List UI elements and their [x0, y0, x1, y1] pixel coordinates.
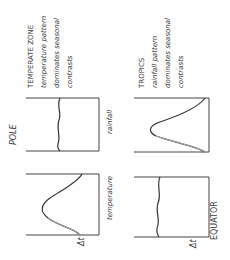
tropics-caption-line-2: rainfall pattern [151, 36, 159, 88]
temperate-caption-line-3: dominates seasonal [53, 18, 61, 88]
temperate-caption-line-2: temperature pattern [40, 16, 48, 88]
flat-curve [157, 177, 160, 237]
temperate-caption-line-1: TEMPERATE ZONE [27, 25, 35, 89]
temperature-label: temperature [106, 176, 114, 220]
panel-frame [134, 98, 209, 152]
flat-curve [58, 98, 60, 151]
delta-t-tropics: Δt [189, 239, 198, 249]
tropics-rainfall-panel [134, 98, 209, 152]
tropics-caption-line-3: dominates seasonal [164, 18, 172, 88]
tropics-caption-line-4: contrasts [177, 55, 185, 88]
tropics-temperature-panel [134, 177, 209, 237]
temperate-temperature-panel [26, 174, 99, 235]
tropics-caption: TROPICS rainfall pattern dominates seaso… [138, 18, 185, 89]
peaked-curve [150, 98, 205, 152]
temperate-caption: TEMPERATE ZONE temperature pattern domin… [27, 16, 74, 89]
peaked-curve-light [48, 218, 80, 235]
peaked-curve-light [156, 136, 205, 152]
climate-diagram: TEMPERATE ZONE temperature pattern domin… [0, 0, 230, 260]
temperate-caption-line-4: contrasts [66, 55, 74, 88]
equator-label: EQUATOR [210, 201, 219, 240]
delta-t-temperate: Δt [77, 237, 86, 247]
pole-label: POLE [9, 123, 18, 145]
rainfall-label: rainfall [106, 110, 114, 134]
temperate-rainfall-panel [26, 98, 99, 151]
panel-frame [26, 98, 99, 151]
panel-frame [134, 177, 209, 237]
tropics-caption-line-1: TROPICS [138, 57, 146, 89]
